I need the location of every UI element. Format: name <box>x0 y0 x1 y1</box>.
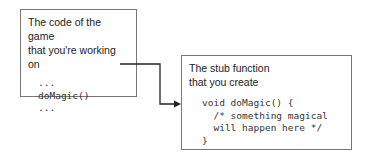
connector-arrow-icon <box>0 0 369 161</box>
